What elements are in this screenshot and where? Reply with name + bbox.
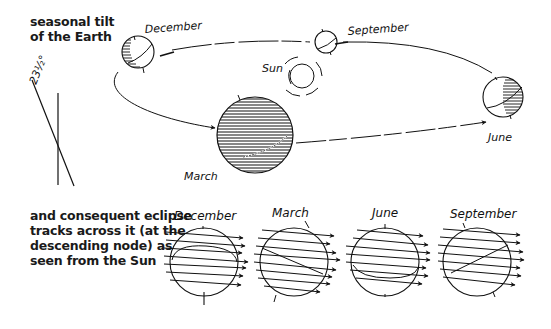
- diagram-canvas: 23½° December September: [0, 0, 551, 329]
- orbit-label-march: March: [184, 170, 218, 183]
- tilted-axis-line: [32, 80, 74, 186]
- eclipse-track-march: [254, 221, 340, 302]
- track-label-december: December: [174, 209, 237, 223]
- eclipse-track-september: [438, 223, 524, 297]
- orbit-path: [114, 41, 492, 143]
- sun: [285, 57, 322, 96]
- earth-december: [122, 36, 154, 73]
- track-label-june: June: [370, 206, 398, 220]
- eclipse-track-december: [164, 226, 248, 305]
- earth-march: [215, 95, 295, 173]
- eclipse-track-june: [346, 224, 430, 297]
- sun-label: Sun: [262, 62, 283, 75]
- earth-june: [483, 77, 525, 119]
- track-label-march: March: [272, 206, 309, 220]
- tilt-axis-diagram: [32, 80, 74, 186]
- orbit-label-june: June: [486, 131, 512, 144]
- tilt-angle-label: 23½°: [27, 53, 50, 86]
- track-label-september: September: [450, 207, 517, 221]
- orbit-label-september: September: [347, 21, 410, 38]
- orbit-label-december: December: [144, 19, 203, 36]
- earth-september: [315, 29, 337, 55]
